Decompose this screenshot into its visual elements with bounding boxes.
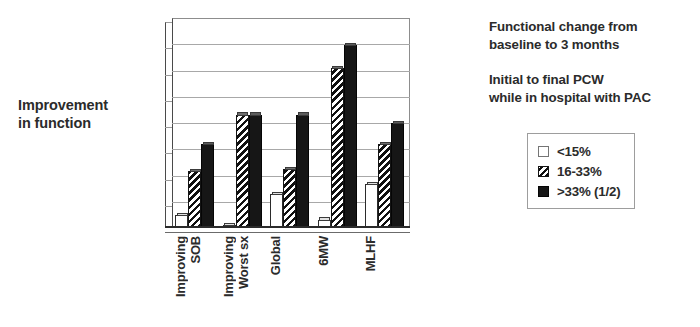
annotation-1-line-2: baseline to 3 months [489, 36, 694, 54]
bar-group [267, 18, 315, 228]
wall-tick [165, 75, 172, 76]
x-axis-label: MLHF [364, 236, 377, 271]
bar [378, 144, 391, 228]
plot-baseline [165, 226, 410, 228]
bar [283, 169, 296, 228]
bar [344, 45, 357, 228]
x-axis-label-group: 6MW [315, 236, 363, 324]
legend-item: <15% [538, 141, 620, 161]
wall-tick [165, 153, 172, 154]
wall-tick [165, 101, 172, 102]
x-axis-label: 6MW [317, 236, 330, 266]
x-axis-label-group: ImprovingWorst sx [220, 236, 268, 324]
legend-label: <15% [557, 144, 591, 159]
y-axis-caption-line-1: Improvement [18, 96, 163, 114]
legend-item: >33% (1/2) [538, 181, 620, 201]
chart-legend: <15%16-33%>33% (1/2) [527, 133, 635, 209]
black-square-icon [538, 186, 549, 197]
x-axis-label: SOB [189, 236, 202, 264]
x-axis-labels: ImprovingSOBImprovingWorst sxGlobal6MWML… [172, 236, 410, 324]
bar [296, 115, 309, 228]
chart-figure: Improvement in function ImprovingSOBImpr… [0, 0, 700, 327]
x-axis-label-group: MLHF [362, 236, 410, 324]
annotation-2-line-1: Initial to final PCW [489, 71, 694, 89]
legend-label: 16-33% [557, 164, 602, 179]
bar [365, 184, 378, 228]
x-axis-label-group: ImprovingSOB [172, 236, 220, 324]
bars-layer [172, 18, 410, 228]
bar [236, 115, 249, 228]
hatched-square-icon [538, 166, 549, 177]
bar [249, 115, 262, 228]
bar-group [172, 18, 220, 228]
x-axis-label: Global [269, 236, 282, 275]
x-axis-label: Improving [174, 236, 187, 297]
annotation-1-line-1: Functional change from [489, 18, 694, 36]
bar-group [315, 18, 363, 228]
bar [331, 68, 344, 228]
annotation-initial-final-pcw: Initial to final PCW while in hospital w… [489, 71, 694, 106]
wall-tick [165, 206, 172, 207]
y-axis-caption: Improvement in function [18, 96, 163, 132]
bar-group [362, 18, 410, 228]
bar-group [220, 18, 268, 228]
white-square-icon [538, 146, 549, 157]
plot-area [172, 18, 410, 228]
x-axis-label: Worst sx [237, 236, 250, 289]
bar [201, 144, 214, 228]
wall-tick [165, 180, 172, 181]
bar [270, 194, 283, 228]
legend-item: 16-33% [538, 161, 620, 181]
plot-left-wall [165, 22, 172, 228]
x-axis-label-group: Global [267, 236, 315, 324]
x-axis-label: Improving [222, 236, 235, 297]
annotation-functional-change: Functional change from baseline to 3 mon… [489, 18, 694, 53]
annotation-block: Functional change from baseline to 3 mon… [489, 18, 694, 106]
bar [391, 123, 404, 228]
legend-label: >33% (1/2) [557, 184, 620, 199]
y-axis-caption-line-2: in function [18, 114, 163, 132]
wall-tick [165, 48, 172, 49]
bar [188, 171, 201, 228]
annotation-2-line-2: while in hospital with PAC [489, 89, 694, 107]
wall-tick [165, 127, 172, 128]
plot-floor [165, 228, 410, 233]
